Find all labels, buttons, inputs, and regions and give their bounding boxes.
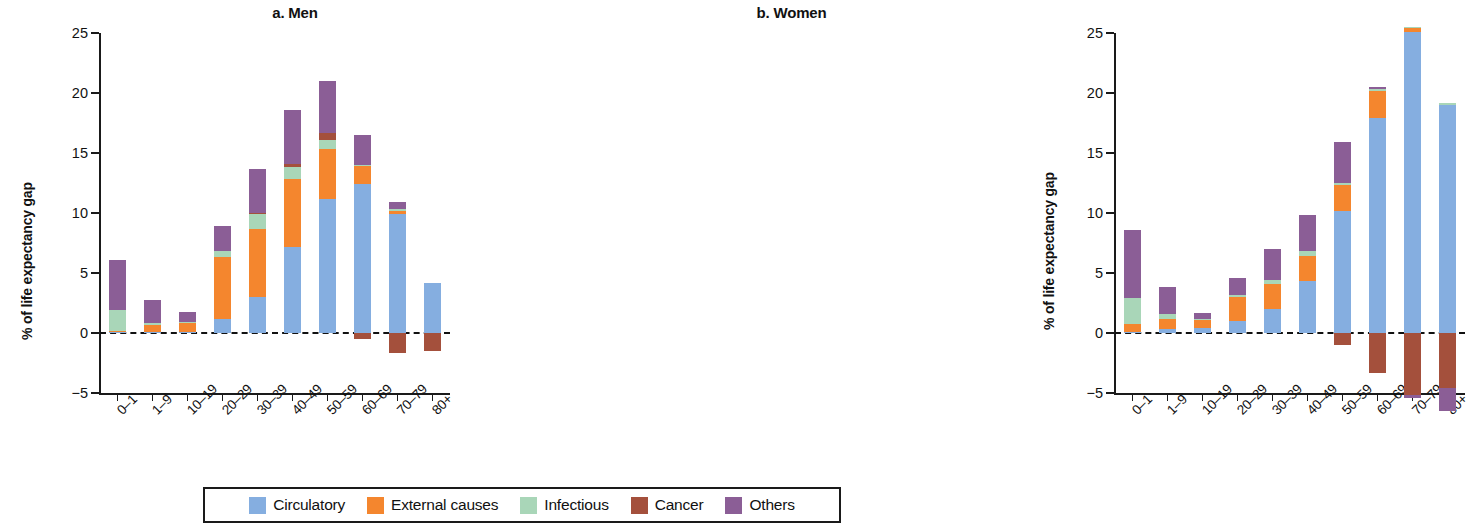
bar-men[interactable]	[354, 33, 372, 393]
bar-segment-women[interactable]	[1369, 87, 1387, 89]
bar-segment-men[interactable]	[144, 323, 162, 325]
bar-segment-women[interactable]	[1369, 333, 1387, 373]
bar-segment-women[interactable]	[1299, 251, 1317, 256]
bar-segment-men[interactable]	[389, 214, 407, 333]
bar-segment-men[interactable]	[319, 149, 337, 198]
bar-men[interactable]	[389, 33, 407, 393]
bar-segment-men[interactable]	[319, 140, 337, 150]
bar-men[interactable]	[144, 33, 162, 393]
bar-segment-men[interactable]	[249, 229, 267, 297]
legend-item-others[interactable]: Others	[725, 496, 794, 514]
bar-segment-men[interactable]	[214, 251, 232, 257]
bar-segment-men[interactable]	[249, 297, 267, 333]
bar-segment-women[interactable]	[1264, 284, 1282, 309]
bar-women[interactable]	[1159, 33, 1177, 393]
bar-segment-women[interactable]	[1369, 91, 1387, 119]
bar-segment-women[interactable]	[1439, 388, 1457, 411]
bar-segment-men[interactable]	[214, 226, 232, 251]
bar-women[interactable]	[1229, 33, 1247, 393]
bar-men[interactable]	[424, 33, 442, 393]
bar-segment-women[interactable]	[1299, 256, 1317, 281]
bar-segment-women[interactable]	[1404, 333, 1422, 395]
bar-segment-men[interactable]	[214, 319, 232, 333]
bar-segment-women[interactable]	[1404, 28, 1422, 32]
bar-segment-men[interactable]	[284, 179, 302, 246]
bar-women[interactable]	[1264, 33, 1282, 393]
bar-segment-women[interactable]	[1264, 309, 1282, 333]
bar-women[interactable]	[1194, 33, 1212, 393]
bar-segment-men[interactable]	[249, 213, 267, 214]
bar-segment-men[interactable]	[319, 133, 337, 140]
bar-segment-men[interactable]	[109, 332, 127, 333]
bar-segment-women[interactable]	[1159, 314, 1177, 319]
bar-segment-women[interactable]	[1229, 297, 1247, 321]
bar-segment-women[interactable]	[1439, 333, 1457, 388]
bar-men[interactable]	[214, 33, 232, 393]
bar-segment-men[interactable]	[179, 323, 197, 333]
bar-segment-women[interactable]	[1334, 183, 1352, 185]
bar-segment-men[interactable]	[354, 135, 372, 165]
bar-women[interactable]	[1299, 33, 1317, 393]
bar-segment-men[interactable]	[354, 184, 372, 333]
bar-segment-men[interactable]	[109, 310, 127, 332]
bar-segment-women[interactable]	[1369, 118, 1387, 333]
bar-segment-women[interactable]	[1159, 319, 1177, 330]
bar-segment-women[interactable]	[1159, 329, 1177, 333]
bar-men[interactable]	[319, 33, 337, 393]
bar-women[interactable]	[1334, 33, 1352, 393]
bar-segment-men[interactable]	[424, 283, 442, 333]
bar-segment-women[interactable]	[1124, 332, 1142, 333]
bar-segment-men[interactable]	[354, 165, 372, 166]
bar-segment-women[interactable]	[1334, 185, 1352, 210]
bar-segment-men[interactable]	[109, 260, 127, 309]
bar-women[interactable]	[1404, 33, 1422, 393]
bar-segment-women[interactable]	[1299, 215, 1317, 251]
bar-segment-women[interactable]	[1334, 142, 1352, 183]
bar-segment-men[interactable]	[319, 199, 337, 333]
bar-women[interactable]	[1369, 33, 1387, 393]
bar-segment-women[interactable]	[1439, 105, 1457, 333]
bar-segment-men[interactable]	[284, 167, 302, 179]
bar-segment-men[interactable]	[284, 110, 302, 164]
bar-segment-men[interactable]	[249, 169, 267, 213]
bar-segment-men[interactable]	[249, 214, 267, 228]
bar-segment-men[interactable]	[144, 325, 162, 332]
bar-segment-men[interactable]	[144, 332, 162, 333]
bar-segment-men[interactable]	[354, 166, 372, 184]
bar-segment-men[interactable]	[389, 211, 407, 215]
bar-segment-women[interactable]	[1404, 395, 1422, 397]
bar-segment-women[interactable]	[1334, 333, 1352, 345]
bar-segment-women[interactable]	[1404, 27, 1422, 28]
legend-item-circulatory[interactable]: Circulatory	[249, 496, 345, 514]
bar-segment-women[interactable]	[1229, 278, 1247, 295]
bar-segment-women[interactable]	[1229, 321, 1247, 333]
bar-men[interactable]	[109, 33, 127, 393]
bar-segment-women[interactable]	[1159, 287, 1177, 313]
bar-men[interactable]	[249, 33, 267, 393]
bar-segment-men[interactable]	[179, 322, 197, 323]
bar-segment-men[interactable]	[179, 332, 197, 333]
bar-segment-women[interactable]	[1194, 328, 1212, 333]
bar-segment-men[interactable]	[144, 300, 162, 323]
bar-segment-men[interactable]	[319, 81, 337, 133]
bar-segment-men[interactable]	[424, 333, 442, 351]
bar-segment-women[interactable]	[1439, 103, 1457, 105]
bar-women[interactable]	[1124, 33, 1142, 393]
bar-segment-women[interactable]	[1299, 281, 1317, 333]
bar-segment-women[interactable]	[1124, 324, 1142, 332]
bar-men[interactable]	[179, 33, 197, 393]
bar-segment-women[interactable]	[1194, 320, 1212, 328]
bar-segment-men[interactable]	[354, 333, 372, 339]
bar-segment-women[interactable]	[1124, 230, 1142, 297]
bar-segment-men[interactable]	[284, 247, 302, 333]
bar-segment-women[interactable]	[1264, 280, 1282, 284]
bar-segment-women[interactable]	[1264, 249, 1282, 280]
bar-segment-men[interactable]	[109, 331, 127, 332]
bar-segment-men[interactable]	[284, 164, 302, 168]
bar-segment-women[interactable]	[1334, 211, 1352, 333]
bar-segment-men[interactable]	[214, 257, 232, 318]
bar-segment-men[interactable]	[389, 202, 407, 209]
bar-segment-men[interactable]	[389, 209, 407, 210]
bar-men[interactable]	[284, 33, 302, 393]
bar-segment-women[interactable]	[1404, 32, 1422, 333]
